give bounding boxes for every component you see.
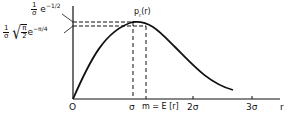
y-label-mean: 1σ √π2e−π/4 <box>3 24 48 40</box>
x-label-mean: m = E [r] <box>142 103 179 111</box>
leader-mean <box>64 26 73 33</box>
x-label-3sigma: 3σ <box>246 103 257 112</box>
curve-label: pr(r) <box>134 8 151 18</box>
y-label-peak: 1σ e−1/2 <box>31 2 61 17</box>
x-label-sigma: σ <box>129 103 135 112</box>
x-axis-label: r <box>280 103 284 112</box>
density-curve <box>73 22 233 99</box>
x-label-2sigma: 2σ <box>187 103 198 112</box>
rayleigh-density-figure: 1σ e−1/2 1σ √π2e−π/4 pr(r) O σ m = E [r]… <box>0 0 290 116</box>
leader-peak <box>62 14 73 22</box>
x-label-origin: O <box>69 103 76 112</box>
